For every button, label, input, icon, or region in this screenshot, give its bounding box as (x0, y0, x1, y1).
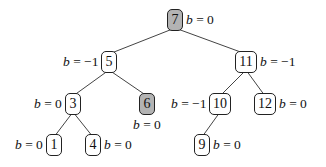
tree-node-11: 11 (235, 51, 257, 73)
balance-label-6: b = 0 (133, 117, 161, 133)
edge-5-3 (73, 70, 109, 96)
balance-label-4: b = 0 (104, 137, 132, 153)
edge-7-11 (175, 28, 246, 54)
tree-node-5: 5 (101, 51, 117, 73)
balance-label-7: b = 0 (186, 12, 214, 28)
edge-7-5 (109, 28, 175, 54)
tree-node-10: 10 (209, 93, 231, 115)
tree-node-3: 3 (65, 93, 81, 115)
balance-label-12: b = 0 (279, 96, 307, 112)
balance-label-10: b = −1 (171, 96, 206, 112)
tree-node-9: 9 (194, 134, 210, 156)
tree-node-1: 1 (46, 134, 62, 156)
tree-node-6: 6 (139, 93, 155, 115)
balance-label-9: b = 0 (213, 137, 241, 153)
balance-label-1: b = 0 (15, 137, 43, 153)
tree-node-4: 4 (85, 134, 101, 156)
tree-node-7: 7 (167, 9, 183, 31)
balance-label-11: b = −1 (260, 54, 295, 70)
balance-label-3: b = 0 (34, 96, 62, 112)
tree-node-12: 12 (254, 93, 276, 115)
edge-5-6 (109, 70, 147, 96)
balance-label-5: b = −1 (63, 54, 98, 70)
